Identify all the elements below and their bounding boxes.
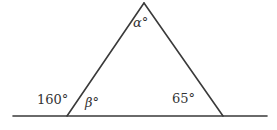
exterior-angle-label: 160°	[37, 92, 68, 107]
apex-angle-label: α°	[133, 15, 148, 30]
left-interior-angle-label: β°	[84, 95, 99, 110]
triangle-diagram: α° β° 160° 65°	[0, 0, 277, 130]
right-interior-angle-label: 65°	[172, 91, 195, 106]
